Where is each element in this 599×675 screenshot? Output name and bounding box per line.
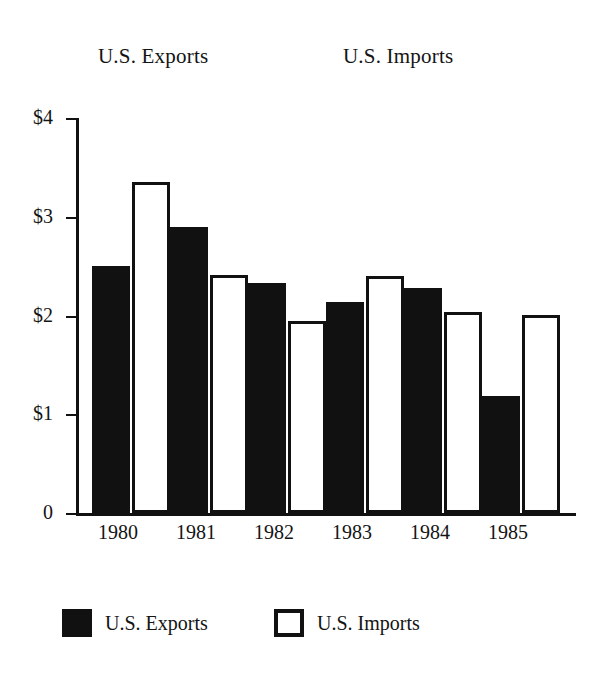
bar-exports-1984 (404, 288, 442, 513)
y-tick-mark: $2 (66, 316, 77, 318)
x-tick-label-1984: 1984 (391, 521, 469, 544)
legend-label-imports: U.S. Imports (317, 612, 420, 635)
x-axis-line (76, 513, 576, 516)
chart-legend: U.S. Exports U.S. Imports (62, 605, 542, 645)
y-tick-label: $3 (33, 205, 53, 228)
legend-item-exports: U.S. Exports (62, 605, 208, 641)
bar-exports-1980 (92, 266, 130, 513)
x-tick-label-1980: 1980 (79, 521, 157, 544)
bar-group-1981 (170, 118, 248, 513)
legend-item-imports: U.S. Imports (274, 605, 420, 641)
legend-label-exports: U.S. Exports (105, 612, 208, 635)
bar-exports-1982 (248, 283, 286, 513)
plot-area: $4$3$2$10 (76, 118, 576, 513)
bar-imports-1984 (444, 312, 482, 513)
series-title-exports: U.S. Exports (98, 44, 208, 69)
bar-group-1985 (482, 118, 560, 513)
bar-group-1984 (404, 118, 482, 513)
bar-group-1983 (326, 118, 404, 513)
x-tick-label-1983: 1983 (313, 521, 391, 544)
series-title-imports: U.S. Imports (343, 44, 453, 69)
x-axis-tick-labels: 198019811982198319841985 (79, 521, 579, 551)
filled-square-icon (62, 609, 92, 637)
bar-chart-figure: U.S. Exports U.S. Imports $4$3$2$10 1980… (0, 0, 599, 675)
y-tick-label: $1 (33, 402, 53, 425)
y-tick-mark: 0 (66, 513, 77, 515)
bar-exports-1983 (326, 302, 364, 513)
bars-container (79, 118, 576, 513)
bar-group-1980 (92, 118, 170, 513)
bar-exports-1985 (482, 396, 520, 514)
bar-imports-1983 (366, 276, 404, 513)
y-tick-mark: $4 (66, 118, 77, 120)
bar-imports-1980 (132, 182, 170, 513)
bar-group-1982 (248, 118, 326, 513)
bar-imports-1981 (210, 275, 248, 513)
y-tick-label: 0 (43, 501, 53, 524)
hollow-square-icon (274, 609, 304, 637)
y-tick-label: $2 (33, 304, 53, 327)
x-tick-label-1985: 1985 (469, 521, 547, 544)
x-tick-label-1982: 1982 (235, 521, 313, 544)
bar-imports-1985 (522, 315, 560, 513)
x-tick-label-1981: 1981 (157, 521, 235, 544)
y-tick-mark: $1 (66, 414, 77, 416)
bar-exports-1981 (170, 227, 208, 513)
y-tick-label: $4 (33, 106, 53, 129)
y-tick-mark: $3 (66, 217, 77, 219)
bar-imports-1982 (288, 321, 326, 513)
